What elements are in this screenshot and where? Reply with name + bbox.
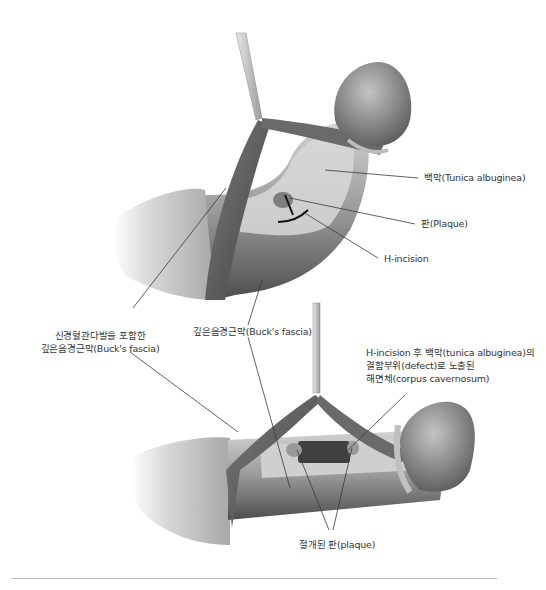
glans-top xyxy=(334,62,411,146)
label-defect-line2: 결함부위(defect)로 노출된 xyxy=(366,359,535,372)
glans-bottom xyxy=(400,402,475,492)
incised-plaque-left xyxy=(286,443,302,457)
incised-plaque-right xyxy=(347,441,359,455)
top-illustration xyxy=(113,33,411,300)
skin-base-bottom xyxy=(130,437,230,545)
label-nvb-line2: 깊은음경근막(Buck's fascia) xyxy=(30,342,170,355)
label-bucks-fascia: 깊은음경근막(Buck's fascia) xyxy=(193,325,312,338)
bottom-illustration xyxy=(130,303,475,545)
corpus-cavernosum-defect xyxy=(298,441,350,463)
skin-base-top xyxy=(113,189,215,300)
label-nvb-bucks-fascia: 신경혈관다발을 포함한 깊은음경근막(Buck's fascia) xyxy=(30,329,170,355)
label-plaque: 판(Plaque) xyxy=(421,217,468,230)
label-defect-line3: 해면체(corpus cavernosum) xyxy=(366,372,535,385)
surgical-illustration: 백막(Tunica albuginea) 판(Plaque) H-incisio… xyxy=(0,0,546,590)
retractor-strap-top xyxy=(236,33,262,120)
label-tunica-albuginea: 백막(Tunica albuginea) xyxy=(424,171,525,184)
illustration-canvas xyxy=(0,0,546,590)
retractor-strap-bottom xyxy=(313,303,320,393)
label-defect-line1: H-incision 후 백막(tunica albuginea)의 xyxy=(366,346,535,359)
label-h-incision: H-incision xyxy=(384,252,429,265)
label-defect-corpus: H-incision 후 백막(tunica albuginea)의 결함부위(… xyxy=(366,346,535,385)
bottom-divider xyxy=(12,578,497,579)
label-nvb-line1: 신경혈관다발을 포함한 xyxy=(30,329,170,342)
label-incised-plaque: 절개된 판(plaque) xyxy=(299,538,375,551)
